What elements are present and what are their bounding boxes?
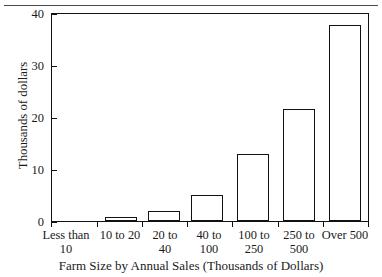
y-tick-label-40: 40 (18, 8, 44, 21)
x-category-line1: 100 to (238, 228, 269, 242)
x-category-line1: 40 to (196, 228, 221, 242)
x-tick-mark-1 (97, 221, 98, 227)
x-category-line2: 10 (30, 243, 102, 257)
x-category-line1: 250 to (283, 228, 314, 242)
x-category-line1: 20 to (152, 228, 177, 242)
bar-over-500 (329, 25, 361, 221)
x-tick-mark-5 (278, 221, 279, 227)
x-tick-mark-6 (323, 221, 324, 227)
x-tick-mark-7 (368, 221, 369, 227)
x-category-line1: Over 500 (322, 228, 368, 242)
bar-chart-figure: Thousands of dollars 0 10 20 30 40 Less … (0, 0, 382, 277)
bar-40-to-100 (191, 195, 223, 221)
y-tick-label-0: 0 (18, 216, 44, 229)
x-tick-mark-2 (142, 221, 143, 227)
x-category-line2: 500 (266, 243, 332, 257)
page-rule-divider (4, 5, 378, 6)
bar-250-to-500 (283, 109, 315, 221)
bar-20-to-40 (148, 211, 180, 221)
bar-100-to-250 (237, 154, 269, 221)
y-tick-label-20: 20 (18, 112, 44, 125)
y-tick-label-30: 30 (18, 60, 44, 73)
plot-frame (51, 13, 369, 222)
x-tick-mark-4 (232, 221, 233, 227)
x-category-over-500: Over 500 (312, 229, 378, 243)
x-tick-mark-0 (51, 221, 52, 227)
x-tick-mark-3 (187, 221, 188, 227)
bar-10-to-20 (105, 217, 137, 221)
y-tick-label-10: 10 (18, 164, 44, 177)
x-axis-baseline (51, 221, 369, 222)
x-category-line1: Less than (42, 228, 89, 242)
x-axis-title: Farm Size by Annual Sales (Thousands of … (0, 258, 382, 274)
